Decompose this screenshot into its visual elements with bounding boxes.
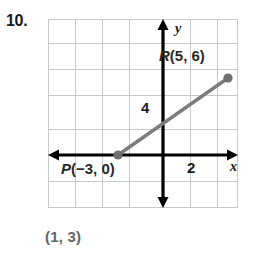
point-label-r-name: R	[159, 47, 170, 64]
x-tick-label-2: 2	[187, 159, 195, 176]
x-axis-label: x	[230, 159, 237, 175]
point-label-r-coords: (5, 6)	[170, 47, 205, 64]
point-label-p: P(−3, 0)	[61, 160, 115, 177]
problem-number: 10.	[6, 12, 27, 30]
y-axis-arrow-down	[158, 197, 169, 208]
point-label-p-name: P	[61, 160, 71, 177]
x-axis-arrow-left	[48, 150, 59, 161]
answer-midpoint: (1, 3)	[45, 228, 81, 245]
point-label-r: R(5, 6)	[159, 47, 205, 64]
point-r[interactable]	[223, 73, 232, 82]
coordinate-plane: y x 4 2 R(5, 6) P(−3, 0)	[48, 19, 238, 208]
point-p[interactable]	[113, 150, 122, 159]
y-tick-label-4: 4	[141, 99, 149, 116]
worksheet-page: 10.	[0, 0, 267, 272]
y-axis-arrow-up	[158, 19, 169, 30]
point-label-p-coords: (−3, 0)	[71, 160, 115, 177]
y-axis-label: y	[175, 21, 181, 37]
segment-pr	[118, 78, 228, 155]
